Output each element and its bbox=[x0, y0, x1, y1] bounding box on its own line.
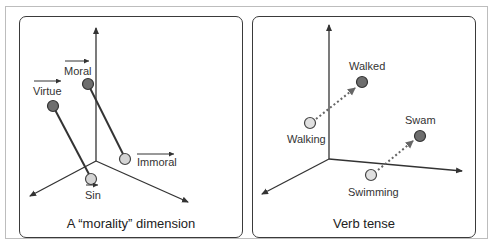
caption-morality: A “morality” dimension bbox=[67, 216, 196, 231]
point-swimming bbox=[366, 170, 377, 181]
connection-virtue-sin bbox=[53, 106, 91, 178]
label-sin: Sin bbox=[85, 189, 101, 201]
point-virtue bbox=[48, 101, 59, 112]
axis-z-right bbox=[329, 159, 462, 171]
label-walked: Walked bbox=[349, 60, 385, 72]
label-immoral: Immoral bbox=[137, 156, 177, 168]
connection-moral-immoral bbox=[88, 84, 125, 158]
label-swimming: Swimming bbox=[348, 186, 399, 198]
point-immoral bbox=[120, 154, 131, 165]
label-walking: Walking bbox=[287, 133, 326, 145]
connection-walking-walked bbox=[316, 88, 355, 119]
point-moral bbox=[83, 79, 94, 90]
label-moral: Moral bbox=[64, 65, 92, 77]
point-swam bbox=[415, 131, 426, 142]
axes-right bbox=[262, 25, 462, 194]
axes-left bbox=[30, 28, 188, 202]
label-virtue: Virtue bbox=[33, 85, 62, 97]
caption-verb-tense: Verb tense bbox=[333, 216, 395, 231]
point-walking bbox=[305, 118, 316, 129]
axis-x-right bbox=[262, 159, 329, 194]
label-swam: Swam bbox=[405, 114, 436, 126]
diagram-canvas: Virtue Moral Immoral Sin A “morality” di… bbox=[0, 0, 495, 250]
point-sin bbox=[86, 174, 97, 185]
point-walked bbox=[357, 77, 368, 88]
